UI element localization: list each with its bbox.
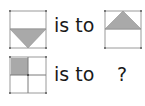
answer-placeholder: ? — [117, 65, 127, 84]
relation-text-row1: is to — [54, 16, 94, 35]
figure-b-upright-triangle — [104, 10, 143, 50]
relation-text-row2: is to — [54, 65, 94, 84]
figure-a-inverted-triangle — [9, 10, 48, 50]
figure-c-grid-shaded-cell — [9, 56, 48, 95]
